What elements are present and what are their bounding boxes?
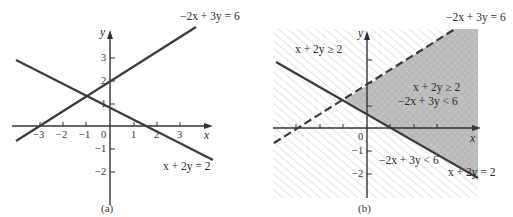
y-tick-label: 3 <box>101 53 106 64</box>
label-line-neg2x-3y-6-b: −2x + 3y = 6 <box>446 12 506 24</box>
caption-b: (b) <box>358 203 371 214</box>
caption-a: (a) <box>101 203 113 214</box>
y-axis-label-a: y <box>100 27 105 39</box>
diagram-canvas <box>0 0 513 217</box>
line-x-2y-2-a <box>16 60 213 160</box>
y-axis-label-b: y <box>358 28 363 40</box>
label-line-x-2y-2-a: x + 2y = 2 <box>163 161 210 173</box>
y-tick-label: −2 <box>352 169 363 180</box>
region-label-lower: −2x + 3y < 6 <box>379 155 439 167</box>
region-label-shaded-2: −2x + 3y < 6 <box>398 96 458 108</box>
label-line-neg2x-3y-6-a: −2x + 3y = 6 <box>180 11 240 23</box>
region-label-upper-left: x + 2y ≥ 2 <box>295 44 342 56</box>
y-tick-label: 2 <box>101 76 106 87</box>
x-tick-label: −2 <box>56 130 67 141</box>
x-axis-label-a: x <box>204 130 209 142</box>
x-tick-label: 1 <box>131 130 136 141</box>
region-label-shaded-1: x + 2y ≥ 2 <box>413 82 460 94</box>
x-tick-label: −1 <box>79 130 90 141</box>
label-line-x-2y-2-b: x + 2y = 2 <box>448 167 495 179</box>
y-tick-label: −1 <box>95 144 106 155</box>
x-tick-label: 0 <box>101 130 106 141</box>
x-axis-label-b: x <box>470 133 475 145</box>
x-tick-label: 2 <box>154 130 159 141</box>
y-tick-label: −1 <box>352 146 363 157</box>
y-axis-arrow-a <box>107 30 113 39</box>
x-tick-label: −3 <box>33 130 44 141</box>
panel-a <box>12 27 213 205</box>
origin-label-b: 0 <box>358 132 363 143</box>
y-tick-label: −2 <box>95 167 106 178</box>
y-tick-label: 1 <box>101 99 106 110</box>
x-tick-label: 3 <box>177 130 182 141</box>
